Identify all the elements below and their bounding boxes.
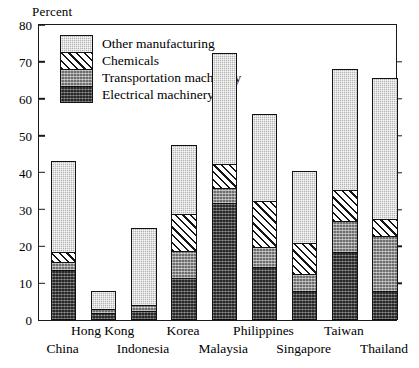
segment-electrical-machinery xyxy=(52,271,76,319)
bar-thailand xyxy=(372,78,398,320)
legend-item-other-manufacturing: Other manufacturing xyxy=(60,35,241,52)
segment-electrical-machinery xyxy=(293,292,317,319)
segment-electrical-machinery xyxy=(333,253,357,319)
y-tick-label: 30 xyxy=(19,202,32,217)
y-tick-label: 60 xyxy=(19,91,32,106)
y-tick-label: 70 xyxy=(19,54,32,69)
y-tick-0: 0 xyxy=(26,314,40,327)
y-tick-80: 80 xyxy=(19,19,39,32)
legend-label: Chemicals xyxy=(102,54,159,68)
tick-mark-icon xyxy=(39,98,45,99)
segment-other-manufacturing xyxy=(172,146,196,215)
segment-chemicals xyxy=(172,215,196,251)
x-axis-label-china: China xyxy=(46,341,78,357)
segment-chemicals xyxy=(333,191,357,222)
bar-philippines xyxy=(252,114,278,321)
x-axis-label-indonesia: Indonesia xyxy=(117,341,169,357)
segment-electrical-machinery xyxy=(92,314,116,319)
legend-swatch-chemicals-icon xyxy=(60,52,93,69)
x-axis-label-philippines: Philippines xyxy=(233,323,294,339)
legend-swatch-electrical-machinery-icon xyxy=(60,86,93,103)
tick-mark-icon xyxy=(39,24,45,25)
segment-transportation-machinery xyxy=(52,263,76,270)
bar-singapore xyxy=(292,171,318,320)
y-tick-70: 70 xyxy=(19,55,39,68)
segment-transportation-machinery xyxy=(333,222,357,253)
y-tick-label: 50 xyxy=(19,128,32,143)
segment-chemicals xyxy=(52,253,76,263)
bar-korea xyxy=(171,145,197,320)
tick-mark-icon xyxy=(39,172,45,173)
segment-electrical-machinery xyxy=(373,292,397,319)
x-axis-label-korea: Korea xyxy=(167,323,200,339)
y-tick-50: 50 xyxy=(19,129,39,142)
segment-other-manufacturing xyxy=(52,162,76,253)
bar-china xyxy=(51,161,77,320)
segment-other-manufacturing xyxy=(92,292,116,311)
segment-electrical-machinery xyxy=(172,279,196,319)
bar-malaysia xyxy=(212,53,238,320)
y-tick-label: 40 xyxy=(19,165,32,180)
x-axis-label-taiwan: Taiwan xyxy=(324,323,364,339)
tick-mark-icon xyxy=(39,61,45,62)
segment-transportation-machinery xyxy=(293,275,317,291)
segment-chemicals xyxy=(373,220,397,236)
x-axis-label-singapore: Singapore xyxy=(276,341,331,357)
y-tick-label: 80 xyxy=(19,18,32,33)
y-tick-60: 60 xyxy=(19,92,39,105)
legend-label: Other manufacturing xyxy=(102,37,215,51)
legend-label: Electrical machinery xyxy=(102,88,214,102)
segment-transportation-machinery xyxy=(253,248,277,268)
bar-taiwan xyxy=(332,69,358,320)
legend-swatch-other-manufacturing-icon xyxy=(60,35,93,52)
y-tick-10: 10 xyxy=(19,277,39,290)
x-axis-label-hong-kong: Hong Kong xyxy=(71,323,134,339)
bar-indonesia xyxy=(131,228,157,320)
segment-chemicals xyxy=(293,244,317,275)
plot-area: 80 70 60 50 40 30 20 10 0 Other manufact… xyxy=(38,24,397,321)
segment-other-manufacturing xyxy=(132,229,156,307)
y-tick-label: 10 xyxy=(19,276,32,291)
y-tick-20: 20 xyxy=(19,240,39,253)
segment-electrical-machinery xyxy=(132,312,156,319)
y-tick-label: 20 xyxy=(19,239,32,254)
segment-transportation-machinery xyxy=(213,189,237,204)
tick-mark-icon xyxy=(39,283,45,284)
segment-chemicals xyxy=(253,202,277,248)
x-axis-label-thailand: Thailand xyxy=(360,341,408,357)
segment-transportation-machinery xyxy=(373,237,397,292)
segment-other-manufacturing xyxy=(213,54,237,166)
legend-swatch-transportation-machinery-icon xyxy=(60,69,93,86)
right-tick-70 xyxy=(396,61,402,62)
y-tick-30: 30 xyxy=(19,203,39,216)
y-tick-40: 40 xyxy=(19,166,39,179)
segment-other-manufacturing xyxy=(253,115,277,203)
segment-chemicals xyxy=(213,165,237,189)
segment-other-manufacturing xyxy=(333,70,357,191)
segment-transportation-machinery xyxy=(172,252,196,279)
segment-other-manufacturing xyxy=(373,79,397,220)
tick-mark-icon xyxy=(39,246,45,247)
segment-other-manufacturing xyxy=(293,172,317,245)
segment-electrical-machinery xyxy=(253,268,277,319)
tick-mark-icon xyxy=(39,135,45,136)
x-axis-label-malaysia: Malaysia xyxy=(199,341,249,357)
y-tick-label: 0 xyxy=(26,313,33,328)
segment-electrical-machinery xyxy=(213,204,237,319)
bar-hong-kong xyxy=(91,291,117,321)
tick-mark-icon xyxy=(39,209,45,210)
stacked-bar-chart: Percent 80 70 60 50 40 30 20 10 0 Other … xyxy=(0,0,419,368)
